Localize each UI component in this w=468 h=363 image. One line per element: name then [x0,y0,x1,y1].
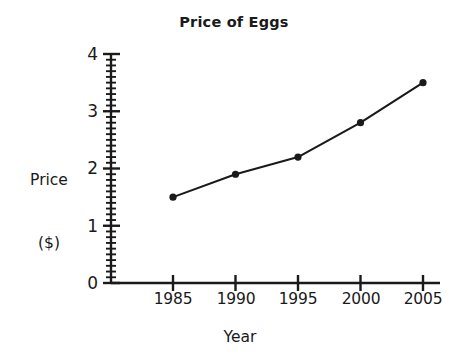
price-of-eggs-line-chart: Price of Eggs Price ($) Year 4 3 2 1 0 1… [0,0,468,363]
data-point-1985 [169,194,176,201]
chart-plot-area [0,0,468,363]
data-series-markers [169,79,426,201]
data-point-2000 [357,119,364,126]
data-series-line [173,83,423,198]
data-point-1995 [294,153,301,160]
data-point-1990 [232,171,239,178]
data-point-2005 [419,79,426,86]
chart-axes [111,54,440,283]
